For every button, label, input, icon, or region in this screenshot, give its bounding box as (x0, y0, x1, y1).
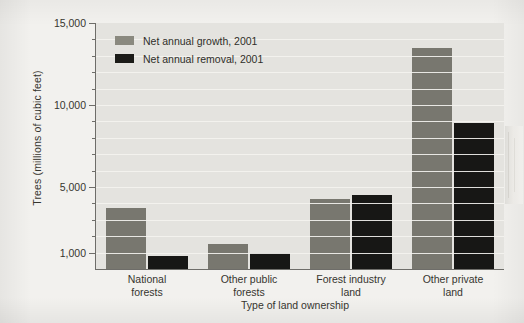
x-category-label-2: Other publicforests (198, 273, 300, 298)
bar-removal-3 (352, 195, 392, 269)
gridline (96, 105, 504, 106)
bar-removal-1 (148, 256, 188, 269)
y-tick-minor (92, 220, 96, 221)
bar-growth-2 (208, 244, 248, 269)
scan-edge-line-2 (514, 138, 515, 192)
gridline (96, 236, 504, 237)
y-tick-major (89, 187, 96, 188)
x-category-label-line: National (96, 273, 198, 286)
x-category-label-line: forests (198, 286, 300, 299)
x-category-label-4: Other privateland (402, 273, 504, 298)
y-tick-label: 10,000 (54, 99, 86, 111)
y-axis-title: Trees (millions of cubic feet) (31, 28, 43, 248)
y-tick-minor (92, 39, 96, 40)
gridline (96, 203, 504, 204)
x-category-label-1: Nationalforests (96, 273, 198, 298)
legend-item-removal: Net annual removal, 2001 (115, 51, 263, 66)
gridline (96, 138, 504, 139)
legend-swatch-removal-icon (115, 54, 134, 63)
y-tick-minor (92, 56, 96, 57)
gridline (96, 154, 504, 155)
gridline (96, 89, 504, 90)
gridline (96, 220, 504, 221)
gridline (96, 121, 504, 122)
bar-growth-3 (310, 199, 350, 270)
y-tick-label: 5,000 (60, 181, 86, 193)
y-tick-minor (92, 203, 96, 204)
gridline (96, 72, 504, 73)
y-tick-minor (92, 154, 96, 155)
y-tick-minor (92, 89, 96, 90)
bar-removal-4 (454, 123, 494, 269)
y-tick-minor (92, 72, 96, 73)
scan-edge-line-1 (508, 132, 509, 198)
x-category-label-line: Other private (402, 273, 504, 286)
x-category-label-line: land (300, 286, 402, 299)
x-axis-line (95, 269, 504, 270)
y-tick-label: 1,000 (60, 247, 86, 259)
bar-removal-2 (250, 253, 290, 269)
y-tick-major (89, 23, 96, 24)
scan-edge-artifact (505, 126, 523, 204)
x-axis-title: Type of land ownership (95, 299, 495, 311)
legend-swatch-growth-icon (115, 36, 134, 45)
chart-figure: Trees (millions of cubic feet) 1,0005,00… (0, 0, 524, 323)
y-tick-label: 15,000 (54, 17, 86, 29)
x-category-label-line: forests (96, 286, 198, 299)
x-category-label-3: Forest industryland (300, 273, 402, 298)
gridline (96, 171, 504, 172)
chart-legend: Net annual growth, 2001 Net annual remov… (115, 33, 263, 69)
gridline (96, 187, 504, 188)
y-tick-minor (92, 236, 96, 237)
y-tick-minor (92, 121, 96, 122)
legend-label-removal: Net annual removal, 2001 (143, 53, 263, 65)
y-tick-minor (92, 171, 96, 172)
legend-item-growth: Net annual growth, 2001 (115, 33, 263, 48)
y-tick-major (89, 253, 96, 254)
x-category-label-line: Other public (198, 273, 300, 286)
y-tick-minor (92, 138, 96, 139)
y-tick-major (89, 105, 96, 106)
x-category-label-line: Forest industry (300, 273, 402, 286)
bar-growth-1 (106, 208, 146, 269)
x-category-label-line: land (402, 286, 504, 299)
gridline (96, 253, 504, 254)
legend-label-growth: Net annual growth, 2001 (143, 35, 257, 47)
y-axis-line (95, 23, 96, 270)
